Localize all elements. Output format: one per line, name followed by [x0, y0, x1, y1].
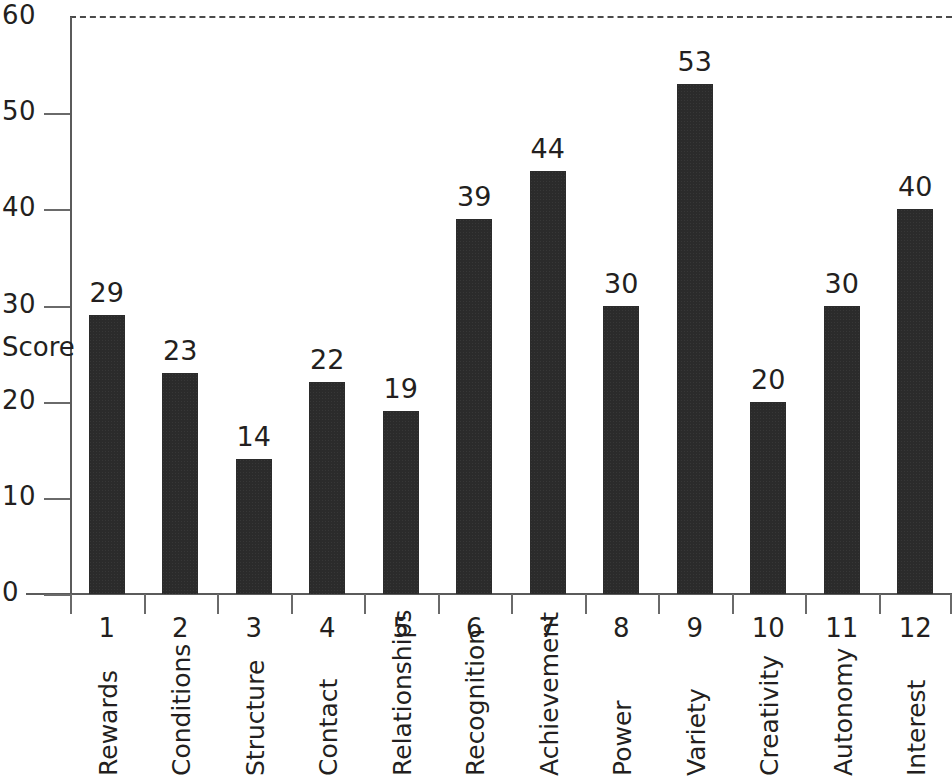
x-axis-category-text: Interest	[904, 680, 929, 776]
x-axis-tick-mark	[291, 594, 293, 614]
x-axis-category-text: Conditions	[169, 644, 194, 776]
bar	[530, 171, 566, 594]
y-axis-tick: 0	[0, 594, 70, 596]
x-axis-category-text: Rewards	[96, 670, 121, 776]
x-axis-number-label: 9	[655, 615, 735, 641]
bar-chart: 0102030405060 Score 291Rewards232Conditi…	[0, 0, 952, 780]
x-axis-number-label: 3	[214, 615, 294, 641]
x-axis-tick-mark	[511, 594, 513, 614]
y-axis-tick-label: 40	[2, 194, 58, 220]
bar	[750, 402, 786, 594]
bar-value-label: 44	[508, 135, 588, 162]
x-axis-tick-mark	[364, 594, 366, 614]
x-axis-tick-mark	[70, 594, 72, 614]
x-axis-number-label: 12	[875, 615, 952, 641]
y-axis-tick-mark	[44, 209, 70, 211]
y-axis-tick-mark	[44, 498, 70, 500]
y-axis-tick-label: 60	[2, 2, 58, 28]
y-axis-tick: 30	[0, 306, 70, 308]
x-axis-category-text: Variety	[684, 688, 709, 776]
x-axis-category-text: Relationships	[390, 610, 415, 777]
y-axis-tick-mark	[44, 402, 70, 404]
bar	[603, 306, 639, 595]
x-axis-category-text: Autonomy	[831, 648, 856, 776]
bar	[456, 219, 492, 594]
y-axis-tick-label: 20	[2, 387, 58, 413]
x-axis-category-text: Recognition	[463, 629, 488, 776]
bar	[677, 84, 713, 594]
x-axis-number-label: 11	[802, 615, 882, 641]
x-axis-tick-mark	[217, 594, 219, 614]
bar	[383, 411, 419, 594]
y-axis-tick: 60	[0, 17, 70, 19]
bar-value-label: 23	[140, 337, 220, 364]
x-axis-category-text: Power	[610, 700, 635, 776]
x-axis-category-text: Contact	[316, 679, 341, 776]
x-axis-category-text: Creativity	[757, 655, 782, 776]
bar-value-label: 39	[434, 183, 514, 210]
y-axis-tick: 20	[0, 402, 70, 404]
bar-value-label: 30	[802, 270, 882, 297]
reference-line-60	[70, 16, 952, 18]
x-axis-category-text: Achievement	[537, 612, 562, 776]
bar	[162, 373, 198, 594]
y-axis-tick: 50	[0, 113, 70, 115]
bar-value-label: 29	[67, 279, 147, 306]
y-axis-tick: 40	[0, 209, 70, 211]
bar-value-label: 14	[214, 423, 294, 450]
x-axis-tick-mark	[805, 594, 807, 614]
x-axis-tick-mark	[658, 594, 660, 614]
bar	[824, 306, 860, 595]
y-axis-tick-label: 30	[2, 291, 58, 317]
bar	[897, 209, 933, 594]
bar-value-label: 19	[361, 375, 441, 402]
x-axis-tick-mark	[144, 594, 146, 614]
bar-value-label: 40	[875, 173, 952, 200]
x-axis-tick-mark	[585, 594, 587, 614]
y-axis-title: Score	[2, 334, 75, 360]
y-axis-tick-mark	[44, 113, 70, 115]
bar	[236, 459, 272, 594]
x-axis-tick-mark	[732, 594, 734, 614]
bar-value-label: 53	[655, 48, 735, 75]
bar-value-label: 20	[728, 366, 808, 393]
y-axis-tick-label: 50	[2, 98, 58, 124]
x-axis-tick-mark	[438, 594, 440, 614]
y-axis-tick-label: 10	[2, 483, 58, 509]
y-axis-tick: 10	[0, 498, 70, 500]
bar	[89, 315, 125, 594]
bar	[309, 382, 345, 594]
bar-value-label: 30	[581, 270, 661, 297]
x-axis-number-label: 1	[67, 615, 147, 641]
x-axis-number-label: 2	[140, 615, 220, 641]
y-axis-tick-label: 0	[2, 579, 58, 605]
x-axis-number-label: 4	[287, 615, 367, 641]
x-axis-number-label: 10	[728, 615, 808, 641]
bar-value-label: 22	[287, 346, 367, 373]
x-axis-number-label: 8	[581, 615, 661, 641]
y-axis-tick-mark	[44, 594, 70, 596]
x-axis-category-text: Structure	[243, 660, 268, 776]
x-axis-tick-mark	[879, 594, 881, 614]
